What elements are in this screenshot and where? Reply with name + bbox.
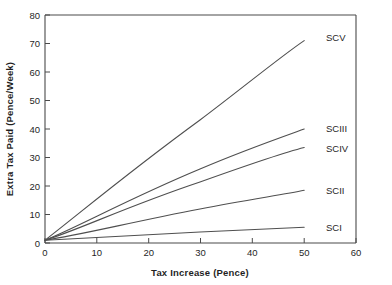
series-label-sciv: SCIV bbox=[326, 143, 349, 154]
series-line-scv[interactable] bbox=[45, 41, 304, 241]
y-tick-label-40: 40 bbox=[29, 124, 40, 135]
x-tick-label-20: 20 bbox=[143, 247, 154, 258]
x-tick-label-0: 0 bbox=[42, 247, 47, 258]
series-label-scii: SCII bbox=[326, 185, 344, 196]
x-tick-label-50: 50 bbox=[299, 247, 310, 258]
series-line-sci[interactable] bbox=[45, 227, 304, 240]
chart-container: 0 10 20 30 40 50 60 70 80 0 10 20 30 40 bbox=[0, 0, 392, 285]
series-label-sciii: SCIII bbox=[326, 123, 347, 134]
x-tick-label-10: 10 bbox=[92, 247, 103, 258]
series-line-sciv[interactable] bbox=[45, 148, 304, 241]
y-tick-label-10: 10 bbox=[29, 209, 40, 220]
y-tick-label-20: 20 bbox=[29, 181, 40, 192]
series-line-scii[interactable] bbox=[45, 190, 304, 240]
series-line-sciii[interactable] bbox=[45, 129, 304, 240]
line-chart: 0 10 20 30 40 50 60 70 80 0 10 20 30 40 bbox=[0, 0, 392, 285]
y-tick-label-30: 30 bbox=[29, 152, 40, 163]
x-axis-tick-labels: 0 10 20 30 40 50 60 bbox=[42, 247, 361, 258]
x-axis-title: Tax Increase (Pence) bbox=[151, 267, 249, 278]
series-label-scv: SCV bbox=[326, 32, 346, 43]
y-tick-label-60: 60 bbox=[29, 67, 40, 78]
series-labels: SCV SCIII SCIV SCII SCI bbox=[326, 32, 349, 233]
series-lines bbox=[45, 41, 304, 241]
y-axis-ticks bbox=[45, 15, 50, 243]
x-tick-label-40: 40 bbox=[247, 247, 258, 258]
series-label-sci: SCI bbox=[326, 222, 342, 233]
x-tick-label-30: 30 bbox=[195, 247, 206, 258]
x-axis-ticks bbox=[45, 238, 356, 243]
x-tick-label-60: 60 bbox=[351, 247, 362, 258]
y-axis-tick-labels: 0 10 20 30 40 50 60 70 80 bbox=[29, 10, 40, 249]
y-axis-title: Extra Tax Paid (Pence/Week) bbox=[4, 62, 15, 196]
y-tick-label-70: 70 bbox=[29, 38, 40, 49]
y-tick-label-80: 80 bbox=[29, 10, 40, 21]
y-tick-label-50: 50 bbox=[29, 95, 40, 106]
y-tick-label-0: 0 bbox=[35, 238, 40, 249]
